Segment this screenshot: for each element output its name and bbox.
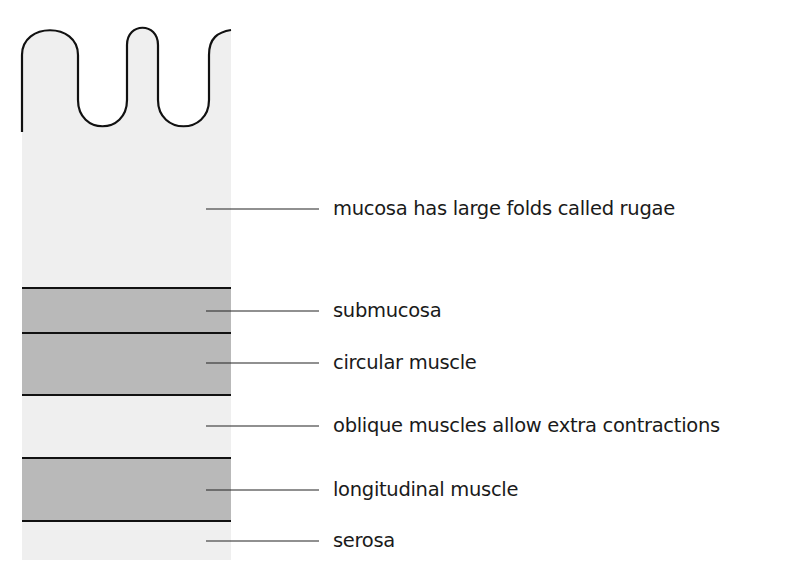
serosa-region	[22, 521, 231, 560]
label-serosa: serosa	[333, 531, 395, 551]
longitudinal-muscle-region	[22, 458, 231, 521]
label-longitudinal-muscle: longitudinal muscle	[333, 480, 518, 500]
label-oblique-muscles: oblique muscles allow extra contractions	[333, 416, 720, 436]
oblique-muscles-region	[22, 395, 231, 458]
circular-muscle-region	[22, 333, 231, 395]
label-mucosa: mucosa has large folds called rugae	[333, 199, 675, 219]
label-submucosa: submucosa	[333, 301, 441, 321]
label-circular-muscle: circular muscle	[333, 353, 477, 373]
submucosa-region	[22, 288, 231, 333]
